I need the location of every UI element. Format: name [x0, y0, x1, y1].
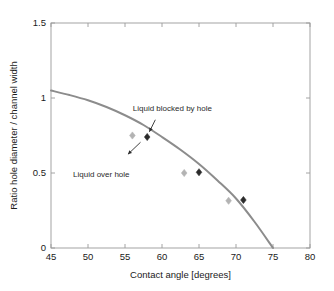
x-tick-label: 75	[268, 251, 279, 262]
x-tick-label: 55	[120, 251, 131, 262]
annotation-liquid-over-hole: Liquid over hole	[73, 170, 130, 179]
x-tick-label: 60	[157, 251, 168, 262]
y-tick-label: 1.5	[33, 17, 46, 28]
x-tick-label: 45	[46, 251, 57, 262]
y-tick-label: 0.5	[33, 167, 46, 178]
y-axis-title: Ratio hole diameter / channel width	[8, 61, 19, 209]
chart-figure: 4550556065707580 00.511.5 Liquid blocked…	[0, 0, 334, 291]
x-tick-label: 50	[83, 251, 94, 262]
plot-area-border	[51, 23, 310, 248]
x-tick-label: 70	[231, 251, 242, 262]
y-tick-label: 0	[41, 242, 46, 253]
x-tick-label: 80	[305, 251, 316, 262]
annotation-liquid-blocked-by-hole: Liquid blocked by hole	[133, 104, 213, 113]
x-axis-title: Contact angle [degrees]	[130, 269, 231, 280]
y-tick-label: 1	[41, 92, 46, 103]
x-tick-label: 65	[194, 251, 205, 262]
axes-frame	[51, 23, 310, 248]
scatter-plot: 4550556065707580 00.511.5 Liquid blocked…	[0, 0, 334, 291]
